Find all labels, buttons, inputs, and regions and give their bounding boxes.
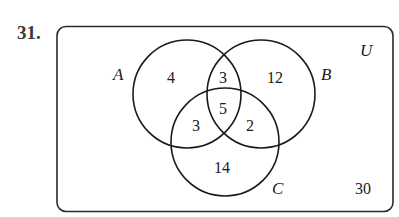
region-b-and-c-only: 2 [246, 117, 254, 134]
region-a-b-c: 5 [219, 100, 227, 117]
universe-label: U [360, 41, 374, 60]
region-a-and-c-only: 3 [192, 117, 200, 134]
region-c-only: 14 [214, 159, 230, 176]
venn-diagram: U A B C 4 3 12 5 3 2 14 30 [0, 0, 399, 217]
circle-a [133, 40, 241, 148]
circle-b [207, 40, 315, 148]
set-label-c: C [272, 179, 284, 198]
set-label-b: B [321, 65, 332, 84]
region-b-only: 12 [267, 69, 283, 86]
region-a-and-b-only: 3 [219, 69, 227, 86]
set-label-a: A [112, 65, 124, 84]
region-a-only: 4 [167, 69, 175, 86]
region-outside: 30 [355, 180, 371, 197]
